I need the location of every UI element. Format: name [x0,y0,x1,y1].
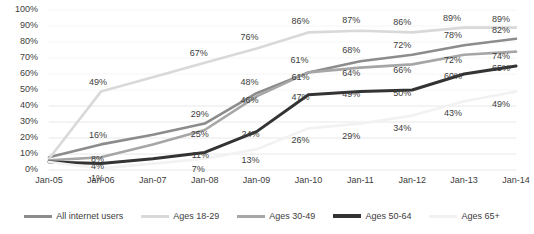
data-label: 87% [342,16,360,25]
y-tick-label: 20% [4,133,38,142]
legend-label: Ages 50-64 [365,211,411,221]
y-tick-label: 0% [4,165,38,174]
data-label: 89% [443,14,461,23]
y-tick-label: 30% [4,117,38,126]
data-label: 66% [393,66,411,75]
data-label: 72% [393,41,411,50]
legend-item-0[interactable]: All internet users [24,211,123,221]
x-tick-label: Jan-07 [130,176,176,185]
data-label: 74% [492,52,510,61]
legend-item-2[interactable]: Ages 30-49 [237,211,315,221]
legend-swatch-icon [141,215,169,218]
data-label: 49% [89,78,107,87]
x-tick-label: Jan-05 [26,176,72,185]
data-label: 34% [393,124,411,133]
x-tick-label: Jan-10 [285,176,331,185]
y-tick-label: 40% [4,101,38,110]
legend-swatch-icon [429,215,457,218]
x-tick-label: Jan-13 [441,176,487,185]
legend-label: All internet users [56,211,123,221]
data-label: 26% [291,136,309,145]
data-label: 65% [492,64,510,73]
legend-label: Ages 65+ [461,211,499,221]
data-label: 89% [492,15,510,24]
data-label: 86% [291,17,309,26]
legend-swatch-icon [333,214,361,218]
data-label: 61% [290,56,308,65]
data-label: 25% [191,130,209,139]
legend-label: Ages 18-29 [173,211,219,221]
data-label: 78% [444,31,462,40]
data-label: 46% [241,96,259,105]
y-tick-label: 50% [4,85,38,94]
data-label: 16% [89,131,107,140]
data-label: 86% [393,18,411,27]
data-label: 49% [342,90,360,99]
legend-swatch-icon [237,215,265,218]
data-label: 24% [242,130,260,139]
x-tick-label: Jan-09 [234,176,280,185]
x-tick-label: Jan-12 [389,176,435,185]
data-label: 68% [342,46,360,55]
data-label: 1% [91,174,104,183]
y-tick-label: 60% [4,69,38,78]
x-tick-label: Jan-11 [337,176,383,185]
data-label: 82% [492,26,510,35]
data-label: 76% [241,33,259,42]
data-label: 43% [444,109,462,118]
data-label: 11% [192,151,209,160]
data-label: 7% [192,165,205,174]
legend-item-4[interactable]: Ages 65+ [429,211,499,221]
legend-label: Ages 30-49 [269,211,315,221]
chart-legend: All internet usersAges 18-29Ages 30-49Ag… [0,205,524,227]
y-tick-label: 90% [4,21,38,30]
legend-item-3[interactable]: Ages 50-64 [333,211,411,221]
data-label: 72% [444,56,462,65]
data-label: 29% [191,110,209,119]
y-tick-label: 100% [4,5,38,14]
data-label: 50% [393,89,411,98]
data-label: 47% [291,93,309,102]
data-label: 64% [342,69,360,78]
data-label: 4% [91,162,104,171]
legend-swatch-icon [24,215,52,218]
data-label: 67% [190,49,208,58]
x-tick-label: Jan-14 [493,176,534,185]
y-tick-label: 10% [4,149,38,158]
data-label: 60% [444,72,462,81]
data-label: 49% [492,100,510,109]
data-label: 48% [241,78,259,87]
y-tick-label: 70% [4,53,38,62]
data-label: 61% [291,73,309,82]
data-label: 29% [342,132,360,141]
y-tick-label: 80% [4,37,38,46]
data-label: 13% [242,156,260,165]
legend-item-1[interactable]: Ages 18-29 [141,211,219,221]
series-line-4 [49,92,516,169]
x-tick-label: Jan-08 [182,176,228,185]
